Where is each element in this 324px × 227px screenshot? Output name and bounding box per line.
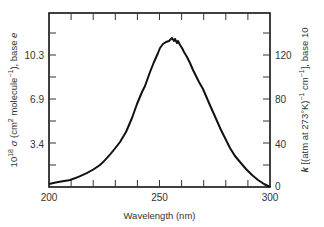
right-tick-40: 40 [275, 139, 287, 150]
right-tick-80: 80 [275, 94, 287, 105]
right-axis-title: k [(atm at 273°K)−1 cm−1], base 10 [298, 28, 310, 173]
absorption-curve [49, 38, 270, 187]
left-tick-6-9: 6.9 [30, 94, 44, 105]
left-tick-3-4: 3.4 [30, 139, 44, 150]
x-tick-200: 200 [41, 192, 58, 203]
right-axis-ticks [263, 33, 270, 165]
x-axis-title: Wavelength (nm) [124, 210, 196, 221]
x-tick-300: 300 [262, 192, 279, 203]
x-axis-ticks [71, 13, 248, 187]
right-tick-120: 120 [275, 50, 292, 61]
left-axis-ticks [49, 33, 56, 165]
x-tick-250: 250 [151, 192, 168, 203]
absorption-chart: 200 250 300 Wavelength (nm) 3.4 6.9 10.3… [0, 0, 324, 227]
plot-frame [49, 13, 270, 187]
right-tick-0: 0 [275, 181, 281, 192]
left-tick-10-3: 10.3 [25, 50, 45, 61]
left-axis-title: 1018 σ (cm2 molecule−1), base e [7, 33, 19, 168]
